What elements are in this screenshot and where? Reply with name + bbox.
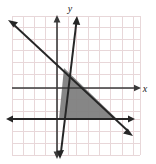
graph-figure: x y [0, 0, 156, 164]
y-axis-label: y [67, 3, 73, 14]
x-axis-label: x [142, 83, 148, 94]
coordinate-plane-svg: x y [0, 0, 156, 164]
